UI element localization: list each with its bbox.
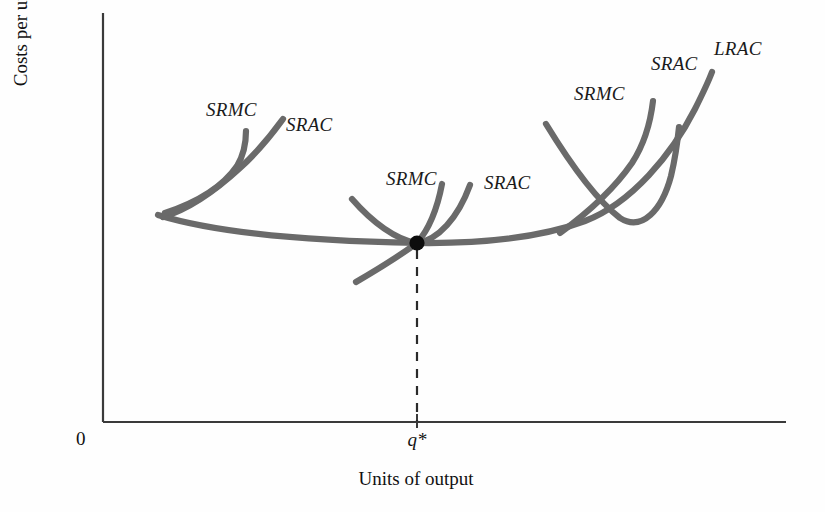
label-srac-left: SRAC <box>286 114 333 136</box>
label-srac-right: SRAC <box>651 53 698 75</box>
y-axis-title: Costs per unit ($) <box>10 0 32 130</box>
srmc-middle-curve <box>356 184 442 282</box>
minimum-efficient-scale-point <box>409 235 424 250</box>
srac-right-curve <box>546 124 679 222</box>
origin-label: 0 <box>76 428 86 450</box>
cost-curves-figure: SRMC SRAC SRMC SRAC SRMC SRAC LRAC Costs… <box>0 0 825 512</box>
srmc-left-curve <box>165 131 246 213</box>
x-axis-title: Units of output <box>306 468 526 490</box>
label-lrac: LRAC <box>714 38 762 60</box>
qstar-tick-label: q* <box>399 429 435 451</box>
label-srmc-middle: SRMC <box>386 168 437 190</box>
srac-middle-curve <box>352 185 470 243</box>
label-srmc-right: SRMC <box>574 83 625 105</box>
label-srmc-left: SRMC <box>206 99 257 121</box>
label-srac-middle: SRAC <box>484 172 531 194</box>
srac-left-curve <box>163 119 283 217</box>
